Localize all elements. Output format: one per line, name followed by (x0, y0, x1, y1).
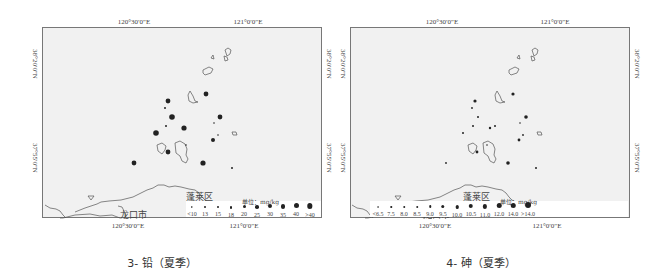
legend-label: 20 (241, 211, 247, 217)
legend: 单位：mg/kg <6.5 7.5 8.0 8.5 9.0 9.5 10.0 1… (370, 201, 628, 217)
legend-label: <10 (187, 211, 196, 217)
legend-label: 9.0 (426, 211, 434, 217)
legend-dot (483, 204, 488, 209)
legend: 单位：mg/kg <10 13 15 18 20 25 30 35 40 >40 (186, 201, 321, 217)
map-panel-lead: 120°30′0″E 121°0′0″E 120°30′0″E 121°0′0″… (0, 0, 335, 276)
place-label-longkou: 龙口市 (120, 208, 147, 221)
legend-item: 25 (254, 205, 260, 218)
legend-label: 35 (280, 212, 286, 218)
map-panel-arsenic: 120°30′0″E 121°0′0″E 120°30′0″E 121°0′0″… (335, 0, 670, 276)
legend-dot (403, 206, 405, 208)
legend-dot (294, 203, 299, 208)
legend-item: 10.5 (466, 204, 477, 217)
legend-dot (455, 205, 459, 209)
legend-item: 14.0 (508, 203, 519, 217)
legend-label: >14.0 (521, 211, 535, 217)
legend-label: 11.0 (480, 212, 490, 218)
legend-item: <6.5 (373, 206, 384, 217)
figure-caption: 4- 砷（夏季） (446, 254, 515, 270)
legend-item: 8.0 (400, 206, 408, 217)
legend-item: 11.0 (480, 204, 490, 218)
legend-label: 40 (293, 211, 299, 217)
legend-item: 9.5 (439, 205, 447, 217)
legend-dot (243, 205, 246, 208)
legend-item: 18 (228, 206, 234, 218)
legend-dot (230, 206, 233, 209)
legend-dot (281, 204, 286, 209)
legend-dot (497, 203, 502, 208)
legend-item: 13 (202, 206, 208, 217)
legend-label: >40 (305, 212, 314, 218)
map-geometry (0, 0, 335, 276)
legend-dot (191, 206, 193, 208)
legend-item: 8.5 (413, 206, 421, 217)
legend-item: >14.0 (521, 202, 535, 217)
legend-item: 7.5 (387, 206, 395, 217)
legend-item: 40 (293, 203, 299, 217)
legend-label: 12.0 (494, 211, 505, 217)
legend-item: <10 (187, 206, 196, 217)
legend-label: 7.5 (387, 211, 395, 217)
legend-dot (217, 206, 219, 208)
legend-dot (442, 205, 445, 208)
legend-dot (511, 203, 516, 208)
legend-item: 20 (241, 205, 247, 217)
legend-label: 14.0 (508, 211, 519, 217)
legend-label: 13 (202, 211, 208, 217)
legend-dot (204, 206, 206, 208)
legend-dot (429, 205, 432, 208)
map-geometry (335, 0, 670, 276)
legend-item: 30 (267, 204, 273, 217)
legend-dot (377, 206, 379, 208)
legend-label: 18 (228, 212, 234, 218)
legend-label: 9.5 (439, 211, 447, 217)
legend-dot (416, 206, 418, 208)
legend-label: 8.0 (400, 211, 408, 217)
legend-dot (469, 204, 473, 208)
legend-label: <6.5 (373, 211, 384, 217)
legend-dot (255, 205, 259, 209)
legend-dot (525, 202, 531, 208)
legend-label: 15 (215, 211, 221, 217)
legend-label: 10.5 (466, 211, 477, 217)
legend-dot (390, 206, 392, 208)
legend-item: 12.0 (494, 203, 505, 217)
legend-item: 10.0 (452, 205, 463, 218)
legend-item: >40 (305, 203, 314, 218)
legend-label: 10.0 (452, 212, 463, 218)
legend-item: 35 (280, 204, 286, 218)
legend-title: 单位：mg/kg (242, 197, 279, 206)
legend-dot (268, 204, 272, 208)
legend-label: 8.5 (413, 211, 421, 217)
legend-item: 9.0 (426, 205, 434, 217)
legend-label: 30 (267, 211, 273, 217)
legend-dot (307, 203, 313, 209)
legend-item: 15 (215, 206, 221, 217)
figure-caption: 3- 铅（夏季） (127, 254, 196, 270)
legend-label: 25 (254, 212, 260, 218)
